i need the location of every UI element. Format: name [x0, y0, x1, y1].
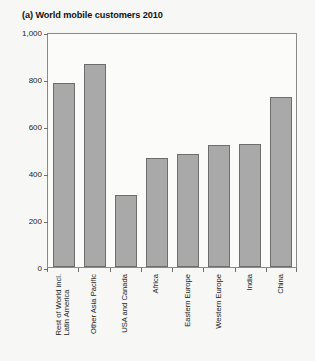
y-tick-label: 600 — [29, 123, 42, 133]
bar — [146, 158, 168, 267]
bar — [177, 154, 199, 267]
x-axis-label-1: Rest of World incl.Latin America — [54, 274, 71, 335]
figure: (a) World mobile customers 2010 Million … — [0, 0, 315, 361]
bar — [84, 64, 106, 267]
x-axis-label-6: Western Europe — [215, 274, 223, 329]
x-label-slot: Eastern Europe — [172, 274, 203, 360]
x-label-slot: Africa — [141, 274, 172, 360]
x-axis-label-4: Africa — [152, 274, 160, 293]
bar-slot — [234, 34, 265, 267]
x-tick-mark — [296, 268, 297, 272]
bar — [115, 195, 137, 267]
x-tick-mark — [172, 268, 173, 272]
x-label-slot: China — [266, 274, 297, 360]
y-tick-label: 200 — [29, 217, 42, 227]
x-axis-ticks — [47, 268, 297, 272]
x-axis-label-3: USA and Canada — [121, 274, 129, 333]
bar — [239, 144, 261, 267]
x-tick-mark — [266, 268, 267, 272]
x-tick-mark — [235, 268, 236, 272]
bar — [270, 97, 292, 267]
bar — [53, 83, 75, 267]
bar-slot — [172, 34, 203, 267]
x-label-slot: Other Asia Pacific — [78, 274, 109, 360]
x-axis-label-2: Other Asia Pacific — [90, 274, 98, 334]
x-tick-mark — [78, 268, 79, 272]
x-axis-label-8: China — [277, 274, 285, 294]
x-tick-mark — [110, 268, 111, 272]
x-tick-mark — [203, 268, 204, 272]
bar-slot — [265, 34, 296, 267]
x-tick-mark — [47, 268, 48, 272]
bar-slot — [203, 34, 234, 267]
y-tick-label: 400 — [29, 170, 42, 180]
chart-title: (a) World mobile customers 2010 — [22, 10, 163, 20]
x-label-slot: Rest of World incl.Latin America — [47, 274, 78, 360]
y-tick-label: 800 — [29, 76, 42, 86]
x-axis-labels: Rest of World incl.Latin AmericaOther As… — [47, 274, 297, 360]
x-label-slot: India — [235, 274, 266, 360]
bar — [208, 145, 230, 267]
x-tick-mark — [141, 268, 142, 272]
bar-slot — [141, 34, 172, 267]
bar-slot — [110, 34, 141, 267]
x-axis-label-5: Eastern Europe — [183, 274, 191, 327]
bar-series — [48, 34, 296, 267]
x-label-slot: USA and Canada — [110, 274, 141, 360]
x-label-slot: Western Europe — [203, 274, 234, 360]
bar-slot — [79, 34, 110, 267]
plot-area: 02004006008001,000 — [48, 34, 296, 267]
plot-frame: 02004006008001,000 — [47, 33, 297, 268]
y-tick-label: 0 — [38, 264, 42, 274]
bar-slot — [48, 34, 79, 267]
y-tick-label: 1,000 — [22, 29, 42, 39]
x-axis-label-7: India — [246, 274, 254, 290]
